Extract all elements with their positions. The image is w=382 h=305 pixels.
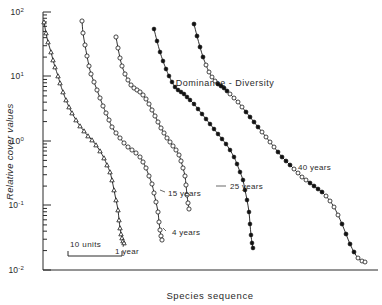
data-point-open: [363, 260, 367, 264]
data-point-filled: [173, 85, 177, 89]
data-point-filled: [248, 222, 252, 226]
data-point-open: [183, 174, 187, 178]
data-point-filled: [192, 22, 196, 26]
data-point-triangle: [53, 65, 57, 69]
y-tick-label-100: 102: [11, 7, 25, 17]
data-point-filled: [232, 155, 236, 159]
dominance-diversity-chart: 102 101 100 10-1 10-2 Relative cover val…: [0, 0, 382, 305]
data-point-open: [89, 72, 93, 76]
data-point-open: [153, 114, 157, 118]
data-point-filled: [216, 132, 220, 136]
curve-label-25-years: 25 years: [230, 182, 263, 191]
data-point-open: [207, 70, 211, 74]
data-point-open: [144, 97, 148, 101]
data-point-triangle: [108, 170, 112, 174]
series-1-year: [42, 20, 126, 245]
data-point-open: [228, 92, 232, 96]
data-point-filled: [308, 181, 312, 185]
data-point-filled: [276, 150, 280, 154]
data-point-filled: [348, 242, 352, 246]
data-point-filled: [208, 122, 212, 126]
data-point-open: [107, 118, 111, 122]
data-point-triangle: [64, 98, 68, 102]
data-point-filled: [238, 170, 242, 174]
data-point-open: [95, 88, 99, 92]
data-point-open: [268, 140, 272, 144]
data-point-filled: [235, 162, 239, 166]
data-point-open: [264, 135, 268, 139]
data-point-filled: [188, 98, 192, 102]
data-point-filled: [344, 232, 348, 236]
data-point-open: [159, 126, 163, 130]
data-point-filled: [280, 155, 284, 159]
series-layer: [42, 19, 367, 264]
data-point-open: [187, 207, 191, 211]
data-point-open: [150, 108, 154, 112]
data-point-open: [174, 148, 178, 152]
data-point-open: [116, 46, 120, 50]
data-point-triangle: [67, 105, 71, 109]
data-point-open: [156, 210, 160, 214]
data-point-open: [260, 130, 264, 134]
data-point-triangle: [74, 118, 78, 122]
x-axis-label: Species sequence: [166, 290, 253, 301]
data-point-open: [332, 205, 336, 209]
data-point-filled: [152, 27, 156, 31]
data-point-filled: [158, 50, 162, 54]
data-point-filled: [312, 184, 316, 188]
curve-label-40-years: 40 years: [298, 163, 331, 172]
figure-root: 102 101 100 10-1 10-2 Relative cover val…: [0, 0, 382, 305]
data-point-open: [179, 159, 183, 163]
data-point-open: [158, 228, 162, 232]
data-point-open: [177, 153, 181, 157]
data-point-filled: [340, 222, 344, 226]
data-point-triangle: [58, 81, 62, 85]
data-point-open: [85, 54, 89, 58]
data-point-open: [141, 93, 145, 97]
data-point-open: [162, 131, 166, 135]
data-point-open: [147, 102, 151, 106]
data-point-open: [160, 238, 164, 242]
data-point-filled: [248, 115, 252, 119]
data-point-triangle: [119, 232, 123, 236]
data-point-triangle: [118, 226, 122, 230]
scale-bar: 10 units: [68, 240, 122, 256]
data-point-filled: [250, 241, 254, 245]
data-point-open: [98, 96, 102, 100]
data-point-open: [156, 120, 160, 124]
data-point-open: [101, 104, 105, 108]
data-point-filled: [170, 80, 174, 84]
data-point-open: [184, 183, 188, 187]
data-point-open: [144, 166, 148, 170]
data-point-filled: [167, 74, 171, 78]
data-point-open: [292, 167, 296, 171]
data-point-open: [123, 72, 127, 76]
y-tick-label-10: 101: [11, 71, 25, 81]
data-point-open: [236, 100, 240, 104]
data-point-triangle: [49, 50, 53, 54]
data-point-filled: [192, 102, 196, 106]
data-point-open: [138, 155, 142, 159]
data-point-open: [114, 35, 118, 39]
data-point-open: [134, 151, 138, 155]
data-point-filled: [196, 107, 200, 111]
data-point-filled: [251, 246, 255, 250]
data-point-filled: [316, 187, 320, 191]
data-point-filled: [284, 159, 288, 163]
data-point-triangle: [42, 20, 46, 24]
data-point-filled: [198, 45, 202, 49]
y-tick-label-0-1: 10-1: [8, 200, 24, 210]
data-point-filled: [161, 59, 165, 63]
data-point-open: [122, 141, 126, 145]
data-point-filled: [245, 198, 249, 202]
data-point-triangle: [112, 188, 116, 192]
data-point-open: [336, 213, 340, 217]
data-point-triangle: [105, 163, 109, 167]
y-axis-minor-ticks: [43, 15, 47, 251]
series-40-years: [192, 22, 367, 264]
curve-line: [82, 21, 162, 240]
data-point-open: [300, 175, 304, 179]
data-point-triangle: [70, 111, 74, 115]
y-axis-label: Relative cover values: [4, 103, 15, 200]
data-point-triangle: [98, 149, 102, 153]
